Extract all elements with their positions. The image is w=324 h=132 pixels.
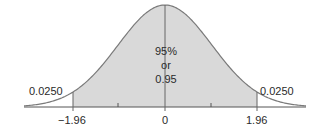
right-tail-label: 0.0250 <box>260 85 294 97</box>
tick-label-0: 0 <box>162 114 168 126</box>
center-annotation: 95% or 0.95 <box>148 44 184 86</box>
left-tail-label: 0.0250 <box>29 85 63 97</box>
tick-label-minus-1.96: −1.96 <box>58 114 86 126</box>
center-annotation-line2: or <box>148 58 184 72</box>
center-annotation-line3: 0.95 <box>148 72 184 86</box>
tick-label-1.96: 1.96 <box>246 114 267 126</box>
center-annotation-line1: 95% <box>148 44 184 58</box>
